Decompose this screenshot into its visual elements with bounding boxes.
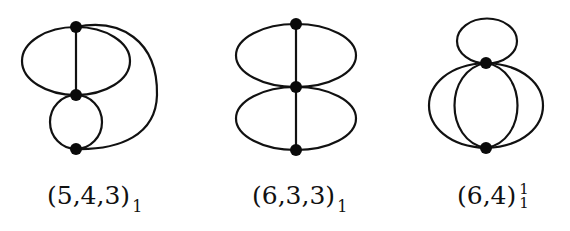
vertex-top	[70, 21, 82, 33]
label-main: (5,4,3)	[47, 181, 130, 210]
vertex-top	[290, 18, 302, 30]
edge-top-loop	[457, 19, 517, 64]
edge-outer-arc	[76, 25, 157, 149]
label-main: (6,3,3)	[252, 181, 335, 210]
label-subscript: 1	[337, 197, 347, 216]
vertex-bottom	[290, 144, 302, 156]
vertex-middle	[290, 81, 302, 93]
label-main: (6,4)	[457, 181, 516, 210]
graph-label-6-4: (6,4)11	[457, 183, 529, 212]
vertex-bottom	[70, 143, 82, 155]
vertex-middle	[70, 89, 82, 101]
vertex-bottom	[480, 142, 492, 154]
edge-inner-left	[455, 63, 487, 148]
graph-5-4-3	[22, 21, 157, 155]
graph-label-5-4-3: (5,4,3)1	[47, 183, 142, 208]
graph-6-3-3	[236, 18, 356, 156]
graph-label-6-3-3: (6,3,3)1	[252, 183, 347, 208]
label-script-stack: 11	[519, 182, 529, 210]
edge-lower-circle	[50, 95, 102, 149]
edge-outer-left	[429, 63, 486, 148]
edge-inner-right	[486, 63, 518, 148]
edge-outer-right	[486, 63, 543, 148]
label-subscript: 1	[519, 196, 529, 210]
label-subscript: 1	[132, 197, 142, 216]
graph-6-4	[429, 19, 543, 155]
vertex-top	[480, 57, 492, 69]
